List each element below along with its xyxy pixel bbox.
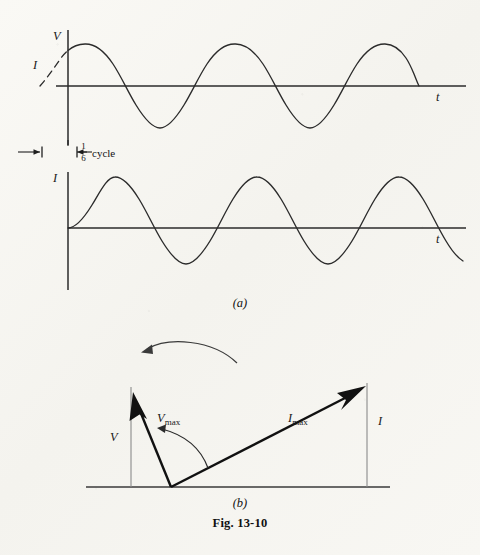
figure-number-caption: Fig. 13-10 [0,516,480,531]
phase-angle-arc [162,429,208,468]
cycle-fraction-denominator: 6 [80,154,87,163]
cycle-fraction-annotation: 1 6 cycle [78,142,115,163]
voltage-phasor-label: Vmax [157,411,181,427]
voltage-y-axis-label: V [53,29,62,43]
current-x-axis-label: t [436,232,440,246]
voltage-lead-label: I [32,58,38,72]
figure-page: V I t I t 1 6 cycle (a) [0,0,480,555]
voltage-x-axis-label: t [436,90,440,104]
cycle-fraction: 1 6 [80,142,87,163]
voltage-phasor-arrowhead [130,392,148,421]
current-waveform-curve [68,177,463,264]
cycle-unit-word: cycle [92,147,115,159]
rotation-direction-arc [147,342,237,363]
current-phasor-label-sub: max [292,417,308,427]
panel-a-graphs: V I t I t [0,0,480,320]
phase-offset-arrow-head [34,149,41,154]
rotation-direction-arrowhead [141,345,153,355]
voltage-dashed-lead-curve [40,51,68,87]
panel-b-caption: (b) [0,496,480,511]
current-projection-label: I [377,414,383,428]
voltage-phasor-label-sub: max [165,417,181,427]
voltage-projection-label: V [110,430,119,444]
current-phasor-arrowhead [337,386,366,410]
current-y-axis-label: I [52,171,58,185]
panel-a-caption: (a) [0,296,480,311]
current-phasor-label: Imax [287,411,308,427]
cycle-fraction-numerator: 1 [80,142,87,151]
current-phasor-shaft [171,397,347,487]
